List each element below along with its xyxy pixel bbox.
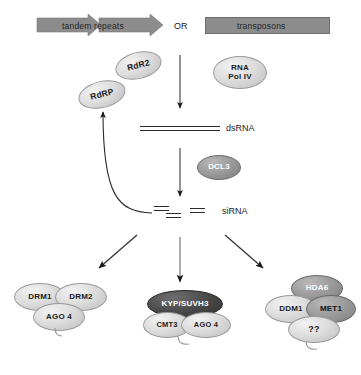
hda6-label: HDA6 xyxy=(306,284,329,292)
kyp-suvh3-label: KYP/SUVH3 xyxy=(161,300,208,308)
drm1-label: DRM1 xyxy=(28,293,51,301)
pathway-diagram: tandem repeats OR transposons RdR2 RdRP … xyxy=(0,0,361,375)
transposons-label: transposons xyxy=(237,21,286,31)
ago4-center-label: AGO 4 xyxy=(194,321,218,329)
or-connector-label: OR xyxy=(174,21,188,31)
sirna-duplex-2-top xyxy=(166,213,181,214)
cmt3-label: CMT3 xyxy=(156,321,177,329)
sirna-duplex-3-bottom xyxy=(190,212,205,213)
dsrna-label: dsRNA xyxy=(226,123,255,133)
branch-arrow-right xyxy=(225,235,263,268)
sirna-duplex-1-bottom xyxy=(154,210,169,211)
amplification-feedback-arrow xyxy=(103,112,152,213)
ddm1-label: DDM1 xyxy=(279,305,302,313)
rdr2-label: RdR2 xyxy=(126,58,150,72)
sirna-duplex-1-top xyxy=(154,206,169,207)
rna-pol-iv-oval: RNA Pol IV xyxy=(213,56,267,89)
rdrp-oval: RdRP xyxy=(75,76,128,114)
rdrp-label: RdRP xyxy=(89,87,114,101)
rdr2-oval: RdR2 xyxy=(112,47,164,85)
tandem-repeats-label: tandem repeats xyxy=(62,21,124,31)
ago4-left-oval: AGO 4 xyxy=(33,303,85,331)
dcl3-oval: DCL3 xyxy=(197,155,241,180)
drm2-label: DRM2 xyxy=(69,293,92,301)
sirna-label: siRNA xyxy=(222,206,248,216)
branch-arrow-left xyxy=(99,235,137,268)
met1-label: MET1 xyxy=(320,305,342,313)
dsrna-strand-top xyxy=(140,126,220,127)
ago4-left-label: AGO 4 xyxy=(46,313,72,321)
sirna-duplex-2-bottom xyxy=(166,217,181,218)
dsrna-strand-bottom xyxy=(140,130,220,131)
unknown-factor-label: ?? xyxy=(308,325,319,334)
ago4-center-oval: AGO 4 xyxy=(181,312,231,338)
unknown-factor-oval: ?? xyxy=(288,316,340,343)
rna-pol-iv-label-line2: Pol IV xyxy=(228,73,251,81)
dcl3-label: DCL3 xyxy=(208,163,230,171)
sirna-duplex-3-top xyxy=(190,208,205,209)
